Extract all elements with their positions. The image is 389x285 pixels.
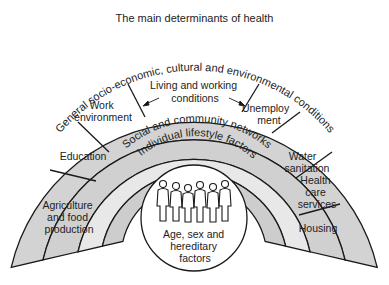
determinants-rainbow: General socio-economic, cultural and env…	[0, 0, 389, 285]
arrow-left-head-icon	[143, 101, 149, 106]
diagram: The main determinants of health	[0, 0, 389, 285]
segment-unemployment: Unemploy ment	[242, 102, 292, 126]
segment-housing: Housing	[299, 222, 338, 234]
living-working-label: Living and working conditions	[150, 79, 240, 104]
segment-education: Education	[60, 150, 107, 162]
segment-agriculture: Agriculture and food production	[42, 199, 95, 235]
segment-water: Water sanitation	[285, 150, 330, 174]
